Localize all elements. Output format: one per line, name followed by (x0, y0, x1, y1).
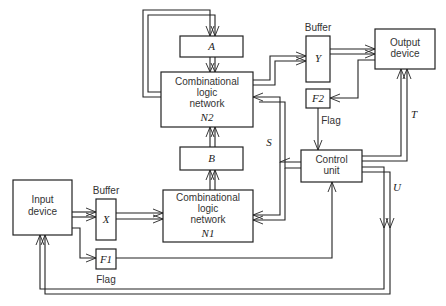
buffer-x-block: Buffer X (93, 185, 120, 240)
signal-u-label: U (393, 181, 402, 193)
register-b-block: B (180, 147, 243, 170)
flag-f1-label: F1 (99, 253, 112, 265)
control-unit-label-line1: Control (315, 154, 347, 165)
output-device-label-line1: Output (390, 37, 420, 48)
bus-input-to-buffer-x (72, 208, 96, 221)
bus-a-to-n2 (206, 57, 219, 72)
block-diagram: Input device Buffer X F1 Flag Combinatio… (0, 0, 446, 306)
buffer-x-label: X (102, 213, 111, 225)
output-device-block: Output device (375, 29, 435, 69)
flag-f1-block: F1 Flag (96, 249, 116, 285)
network-n2-id: N2 (200, 111, 214, 123)
register-a-block: A (180, 36, 243, 57)
network-n1-line1: Combinational (176, 192, 240, 203)
bus-b-to-n2 (206, 127, 219, 147)
bus-s-control-to-networks (253, 93, 301, 224)
bus-t-control-to-output (352, 69, 411, 161)
buffer-y-block: Buffer Y (305, 22, 332, 82)
signal-s-label: S (266, 136, 272, 148)
output-device-label-line2: device (391, 48, 420, 59)
line-output-to-f2 (330, 60, 375, 102)
flag-f2-caption: Flag (321, 115, 340, 126)
register-a-label: A (207, 40, 215, 52)
register-b-label: B (208, 152, 215, 164)
network-n2-line1: Combinational (175, 76, 239, 87)
input-device-label-line1: Input (31, 194, 53, 205)
bus-buffer-y-to-output (330, 45, 375, 58)
buffer-y-caption: Buffer (305, 22, 332, 33)
bus-buffer-x-to-n1 (116, 209, 163, 223)
signal-t-label: T (411, 108, 418, 120)
control-unit-label-line2: unit (323, 165, 339, 176)
control-unit-block: Control unit (301, 150, 362, 182)
network-n1-line2: logic (198, 203, 219, 214)
network-n1-block: Combinational logic network N1 (163, 190, 253, 242)
network-n1-line3: network (190, 214, 226, 225)
flag-f2-label: F2 (311, 92, 325, 104)
network-n1-id: N1 (201, 227, 215, 239)
input-device-block: Input device (13, 180, 72, 235)
buffer-x-caption: Buffer (93, 185, 120, 196)
network-n2-line2: logic (197, 87, 218, 98)
input-device-label-line2: device (28, 206, 57, 217)
flag-f2-block: F2 Flag (306, 89, 341, 126)
bus-n2-to-buffer-y (253, 52, 306, 85)
bus-n1-to-b (206, 170, 219, 190)
network-n2-block: Combinational logic network N2 (161, 72, 253, 127)
flag-f1-caption: Flag (96, 274, 115, 285)
network-n2-line3: network (189, 98, 225, 109)
line-input-to-f1 (72, 228, 96, 262)
